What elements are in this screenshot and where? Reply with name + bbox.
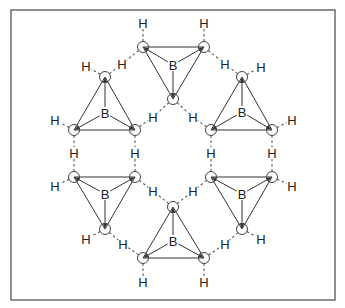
hydrogen-label: H <box>50 113 59 128</box>
bridging-hydrogen-label: H <box>148 184 157 199</box>
atom-circle <box>206 125 217 136</box>
boron-hydride-ring-diagram: HHHHHHHHHHHHHHHHHHHHHHHHBBBBBB <box>0 0 345 308</box>
hydrogen-label: H <box>287 179 296 194</box>
atom-circle <box>168 94 179 105</box>
atom-circle <box>237 224 248 235</box>
bridging-hydrogen-label: H <box>130 146 139 161</box>
atom-circle <box>100 72 111 83</box>
atom-circle <box>199 253 210 264</box>
bridging-hydrogen-label: H <box>148 110 157 125</box>
bridging-hydrogen-label: H <box>118 237 127 252</box>
hydrogen-label: H <box>81 59 90 74</box>
bridging-hydrogen-label: H <box>188 110 197 125</box>
atom-circle <box>267 125 278 136</box>
hydrogen-label: H <box>138 16 147 31</box>
boron-label: B <box>169 234 178 249</box>
atom-circle <box>130 172 141 183</box>
atom-circle <box>138 42 149 53</box>
atom-circle <box>100 224 111 235</box>
atom-circle <box>206 172 217 183</box>
hydrogen-label: H <box>50 179 59 194</box>
hydrogen-label: H <box>199 275 208 290</box>
atom-circle <box>199 42 210 53</box>
boron-label: B <box>238 105 247 120</box>
atom-circle <box>69 125 80 136</box>
bridging-hydrogen-label: H <box>267 146 276 161</box>
hydrogen-label: H <box>256 232 265 247</box>
boron-label: B <box>238 187 247 202</box>
hydrogen-label: H <box>199 16 208 31</box>
boron-label: B <box>101 106 110 121</box>
boron-label: B <box>101 187 110 202</box>
atom-circle <box>168 202 179 213</box>
bridging-hydrogen-label: H <box>117 57 126 72</box>
bridging-hydrogen-label: H <box>69 146 78 161</box>
diagram-frame <box>11 10 335 300</box>
hydrogen-label: H <box>81 232 90 247</box>
bridging-hydrogen-label: H <box>188 184 197 199</box>
hydrogen-label: H <box>256 60 265 75</box>
boron-label: B <box>169 58 178 73</box>
bridging-hydrogen-label: H <box>220 57 229 72</box>
atom-circle <box>130 125 141 136</box>
atom-circle <box>69 172 80 183</box>
atom-circle <box>138 253 149 264</box>
hydrogen-label: H <box>287 113 296 128</box>
hydrogen-label: H <box>138 275 147 290</box>
atom-circle <box>237 72 248 83</box>
bridging-hydrogen-label: H <box>206 146 215 161</box>
atom-circle <box>267 172 278 183</box>
bridging-hydrogen-label: H <box>220 237 229 252</box>
